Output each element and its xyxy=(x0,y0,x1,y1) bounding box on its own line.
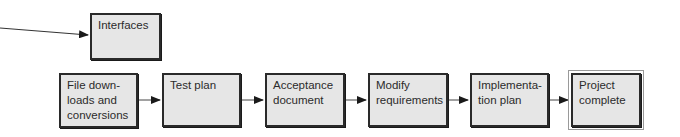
step-label: Implementa- tion plan xyxy=(478,78,541,108)
step-file-downloads: File down- loads and conversions xyxy=(59,73,138,128)
step-label: File down- loads and conversions xyxy=(67,78,130,123)
step-modify-requirements: Modify requirements xyxy=(368,73,448,127)
step-test-plan: Test plan xyxy=(162,73,241,127)
interfaces-box: Interfaces xyxy=(90,13,161,60)
step-project-complete: Project complete xyxy=(571,73,641,127)
step-label: Test plan xyxy=(170,78,233,93)
step-acceptance-document: Acceptance document xyxy=(265,73,345,127)
interfaces-label: Interfaces xyxy=(98,18,153,33)
step-label: Project complete xyxy=(579,78,633,108)
step-label: Acceptance document xyxy=(273,78,337,108)
step-implementation-plan: Implementa- tion plan xyxy=(470,73,549,127)
arrow-to-interfaces xyxy=(0,28,88,35)
step-label: Modify requirements xyxy=(376,78,440,108)
